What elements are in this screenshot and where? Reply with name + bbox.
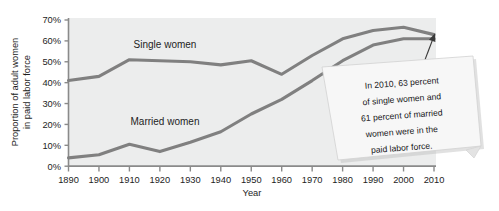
y-tick-label: 40%: [42, 78, 61, 88]
y-tick-label: 20%: [42, 120, 61, 130]
y-axis-title-line1: Proportion of adult women: [10, 38, 20, 147]
x-tick-label: 1990: [363, 175, 384, 185]
y-tick-label: 30%: [42, 99, 61, 109]
x-tick-label: 1930: [180, 175, 201, 185]
x-tick-label: 1890: [58, 175, 79, 185]
x-tick-label: 1920: [150, 175, 171, 185]
y-tick-label: 70%: [42, 15, 61, 25]
y-tick-label: 60%: [42, 36, 61, 46]
series-label-married-women: Married women: [131, 116, 200, 127]
x-tick-label: 1950: [241, 175, 262, 185]
y-axis-title-line2: in paid labor force: [22, 55, 32, 129]
x-tick-label: 1960: [271, 175, 292, 185]
annotation-note: In 2010, 63 percentof single women and61…: [322, 56, 484, 163]
x-tick-label: 1980: [332, 175, 353, 185]
y-axis-tick-labels: 0%10%20%30%40%50%60%70%: [42, 15, 61, 171]
chart-figure: 0%10%20%30%40%50%60%70% 1890190019101920…: [0, 0, 499, 211]
y-tick-label: 10%: [42, 141, 61, 151]
x-tick-label: 1900: [89, 175, 110, 185]
x-tick-label: 2000: [393, 175, 414, 185]
x-tick-label: 2010: [424, 175, 445, 185]
series-label-single-women: Single women: [134, 39, 197, 50]
x-tick-label: 1970: [302, 175, 323, 185]
line-chart: 0%10%20%30%40%50%60%70% 1890190019101920…: [0, 0, 499, 211]
x-tick-label: 1910: [119, 175, 140, 185]
x-axis-title: Year: [243, 188, 262, 198]
y-tick-label: 50%: [42, 57, 61, 67]
y-tick-label: 0%: [48, 162, 61, 172]
x-tick-label: 1940: [210, 175, 231, 185]
x-axis-tick-labels: 1890190019101920193019401950196019701980…: [58, 175, 444, 185]
